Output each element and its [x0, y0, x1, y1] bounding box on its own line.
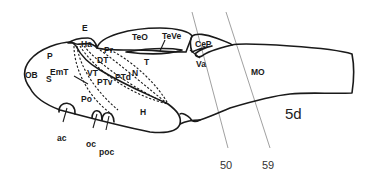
section-label-50: 50 — [220, 159, 232, 171]
label-MO: MO — [251, 67, 265, 77]
section-line-50 — [192, 12, 228, 148]
label-Po: Po — [81, 94, 92, 104]
section-line-59 — [226, 12, 270, 148]
brain-diagram: E Ha P OB S EmT VT DT Pr PTv PTd N Po H … — [0, 0, 370, 180]
oc-leader — [93, 114, 97, 128]
label-poc: poc — [99, 147, 114, 157]
label-oc: oc — [86, 139, 96, 149]
label-PTd: PTd — [115, 72, 131, 82]
section-label-59: 59 — [262, 159, 274, 171]
label-P: P — [47, 51, 53, 61]
label-ac: ac — [57, 133, 67, 143]
label-TeO: TeO — [132, 32, 148, 42]
label-E: E — [82, 23, 88, 33]
label-T: T — [144, 57, 150, 67]
label-CeP: CeP — [195, 39, 212, 49]
label-TeVe: TeVe — [162, 31, 181, 41]
label-Pr: Pr — [104, 45, 114, 55]
label-DT: DT — [97, 55, 109, 65]
hindbrain-floor — [180, 120, 200, 124]
ac-leader — [63, 108, 67, 122]
stage-label: 5d — [285, 105, 302, 122]
label-PTv: PTv — [97, 77, 113, 87]
label-Ha: Ha — [81, 39, 92, 49]
label-Va: Va — [196, 59, 206, 69]
label-N: N — [132, 68, 138, 78]
label-OB: OB — [25, 70, 38, 80]
label-EmT: EmT — [50, 67, 69, 77]
label-H: H — [140, 107, 146, 117]
medulla-outline — [180, 44, 354, 121]
